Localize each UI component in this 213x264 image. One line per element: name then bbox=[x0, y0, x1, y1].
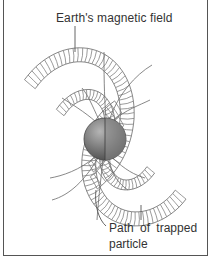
earth-icon bbox=[84, 118, 126, 160]
particle-label-line2: particle bbox=[109, 237, 148, 252]
particle-label-line1: Path of trapped bbox=[109, 221, 197, 236]
title-label: Earth's magnetic field bbox=[56, 11, 173, 26]
